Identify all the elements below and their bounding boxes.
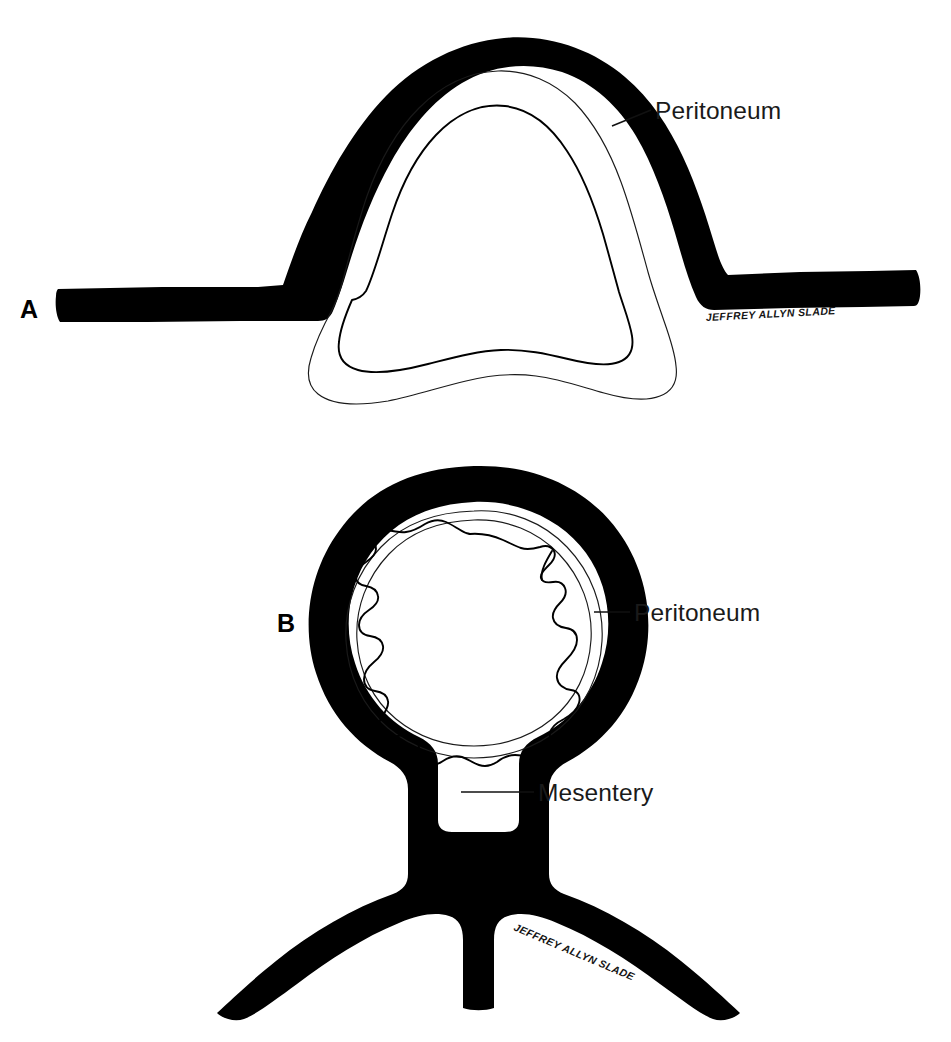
peritoneum-b-label: Peritoneum [634,599,760,626]
mesentery-b-label: Mesentery [538,779,654,806]
peritoneum-band-b [217,466,740,1020]
panel-b-letter: B [277,609,295,637]
anatomical-figure: Peritoneum A JEFFREY ALLYN SLADE Periton… [0,0,951,1042]
lumen-notch-slit-b [542,551,552,580]
figure-canvas: Peritoneum A JEFFREY ALLYN SLADE Periton… [0,0,951,1042]
panel-b-group: Peritoneum Mesentery B JEFFREY ALLYN SLA… [217,466,760,1020]
panel-a-letter: A [20,295,38,323]
visceral-serosa-contour-a [308,71,676,404]
peritoneum-a-label: Peritoneum [655,97,781,124]
panel-a-group: Peritoneum A JEFFREY ALLYN SLADE [20,37,920,404]
serosa-inner-leaflet-b [357,520,591,746]
peritoneum-band-a [56,37,921,322]
